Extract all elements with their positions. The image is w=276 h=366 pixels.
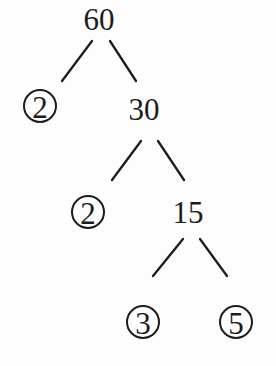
edge-n15-n5 xyxy=(200,239,227,276)
factor-tree-diagram: 6023021535 xyxy=(0,0,276,366)
tree-edges xyxy=(62,41,227,276)
node-label: 3 xyxy=(135,306,151,341)
edge-n60-n30 xyxy=(110,41,136,81)
prime-factor-node: 3 xyxy=(127,306,159,341)
node-label: 30 xyxy=(129,92,160,127)
node-label: 60 xyxy=(84,2,115,37)
composite-node: 15 xyxy=(173,195,204,230)
prime-factor-node: 2 xyxy=(24,90,56,125)
edge-n15-n3 xyxy=(153,239,183,276)
node-label: 15 xyxy=(173,195,204,230)
tree-nodes: 6023021535 xyxy=(24,2,252,341)
edge-n30-n2b xyxy=(112,141,141,180)
node-label: 5 xyxy=(228,306,244,341)
prime-factor-node: 5 xyxy=(220,306,252,341)
composite-node: 30 xyxy=(129,92,160,127)
edge-n60-n2a xyxy=(62,41,92,81)
node-label: 2 xyxy=(32,90,48,125)
edge-n30-n15 xyxy=(158,141,184,180)
composite-node: 60 xyxy=(84,2,115,37)
node-label: 2 xyxy=(80,196,96,231)
prime-factor-node: 2 xyxy=(72,196,104,231)
